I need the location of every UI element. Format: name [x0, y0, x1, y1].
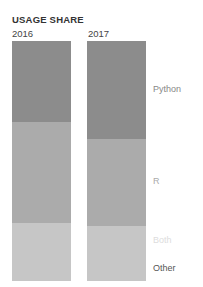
legend-label-python: Python [153, 84, 181, 94]
year-label-2016: 2016 [12, 28, 33, 39]
segment-python-2017 [87, 41, 146, 139]
legend-label-other: Other [153, 263, 176, 273]
segment-other-2016 [12, 223, 71, 281]
chart-title: USAGE SHARE [12, 14, 84, 25]
segment-r-2017 [87, 139, 146, 226]
year-label-2017: 2017 [88, 28, 109, 39]
bar-2017 [87, 41, 146, 281]
bar-2016 [12, 41, 71, 281]
segment-other-2017 [87, 226, 146, 281]
legend-label-r: R [153, 176, 160, 186]
segment-r-2016 [12, 122, 71, 223]
legend-label-both: Both [153, 235, 172, 245]
segment-python-2016 [12, 41, 71, 122]
